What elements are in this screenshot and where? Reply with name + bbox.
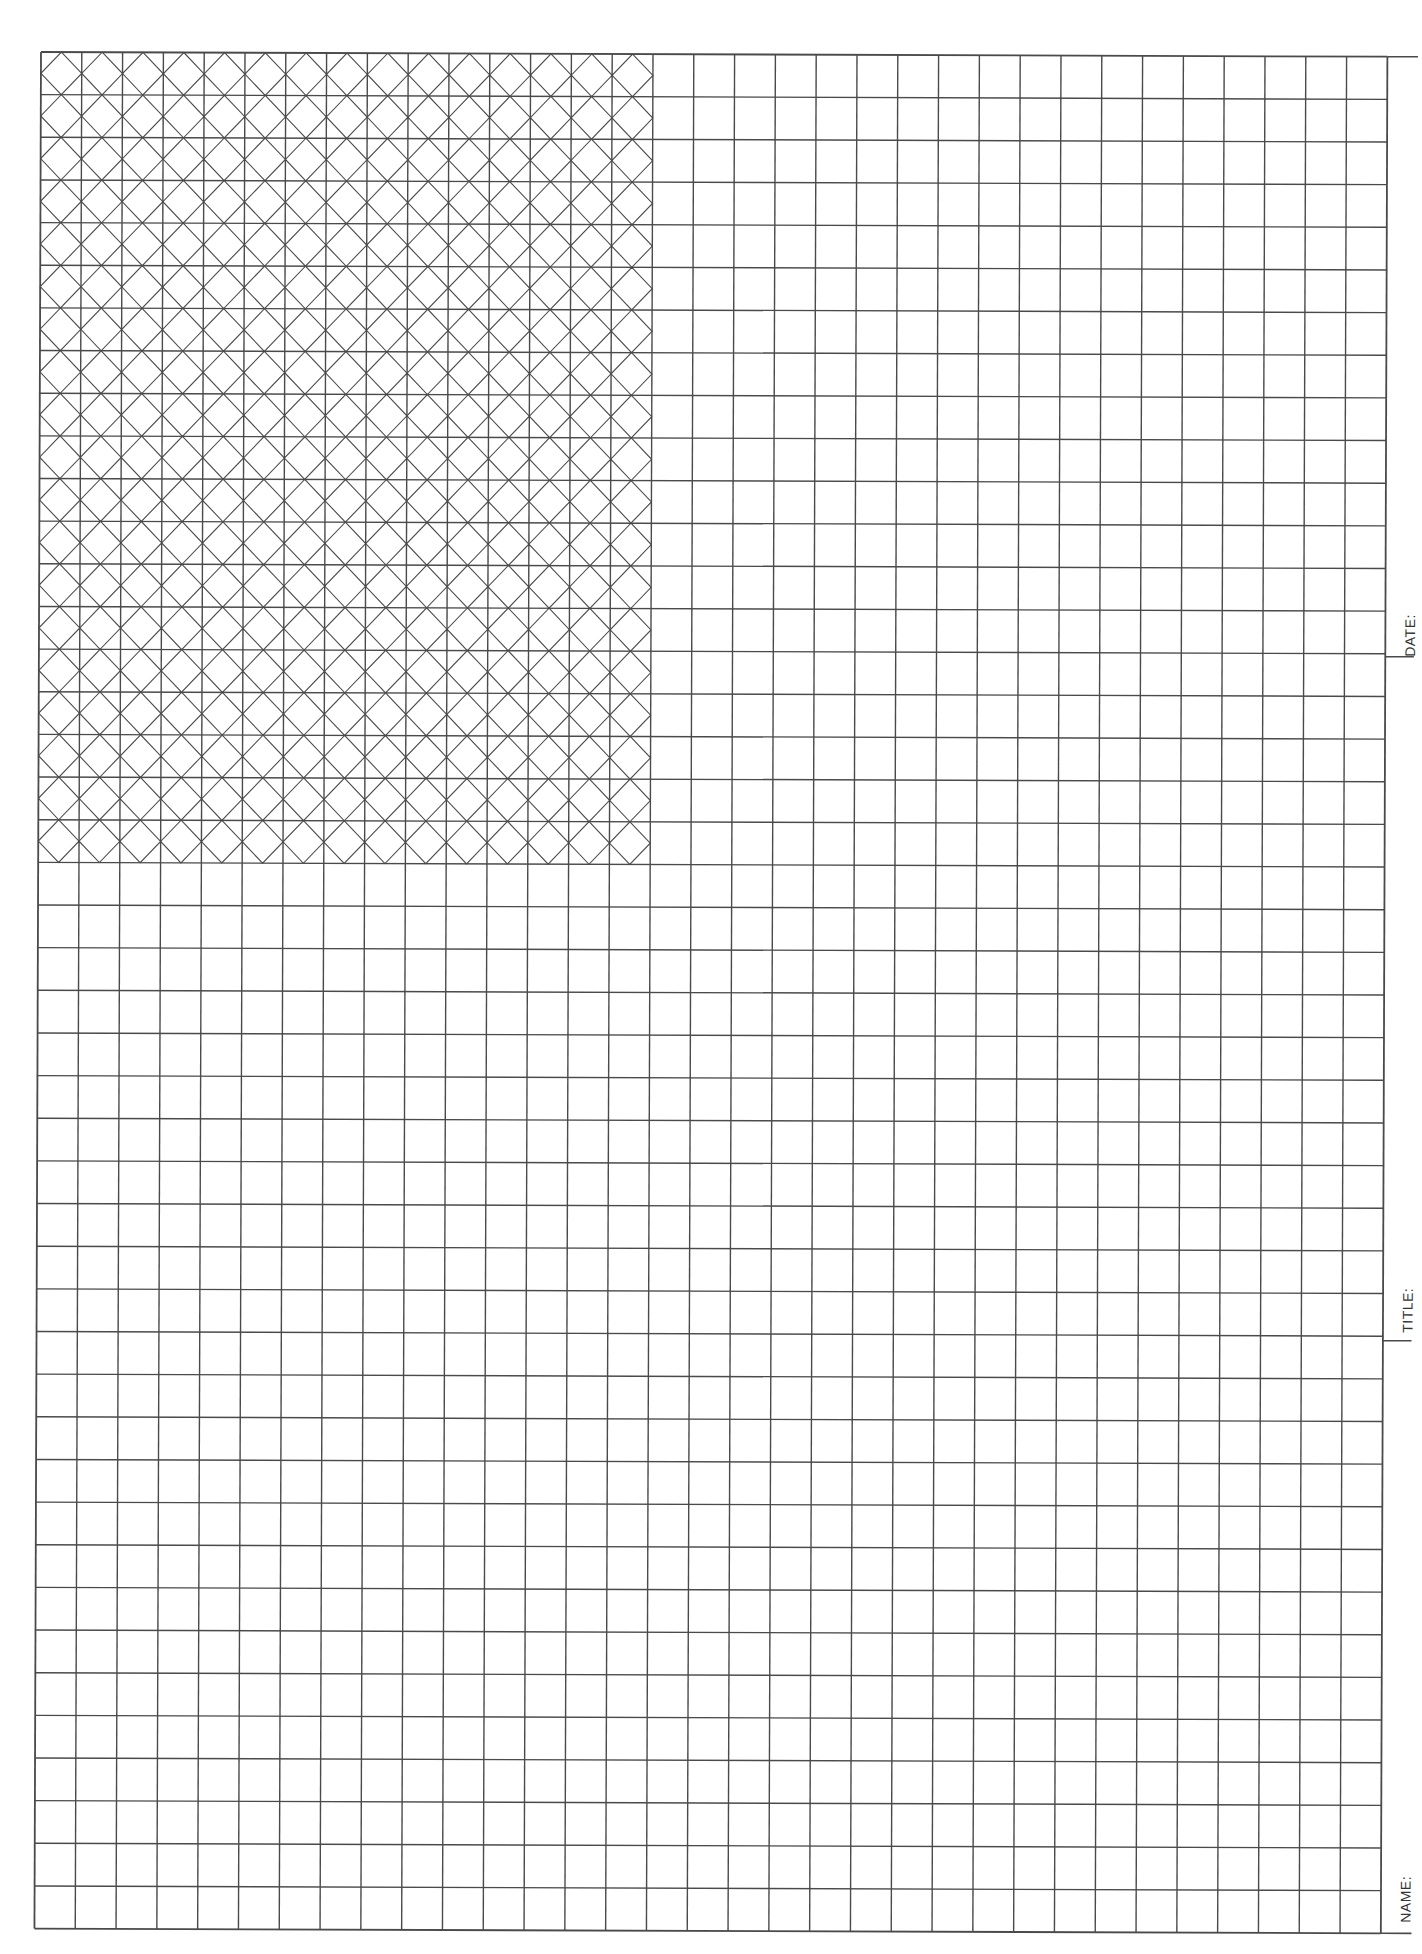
grid-hline [39, 649, 1385, 654]
grid-hline [36, 1459, 1382, 1464]
grid-hline [37, 1076, 1383, 1081]
grid-hline [38, 990, 1384, 995]
grid-hline [40, 265, 1386, 270]
grid-hline [37, 1118, 1383, 1123]
grid-hline [38, 905, 1384, 910]
grid-hline [38, 862, 1384, 867]
grid-hline [37, 1204, 1383, 1209]
grid-hline [41, 137, 1387, 142]
grid-hline [41, 95, 1387, 100]
grid-hline [35, 1843, 1381, 1848]
grid-hline [41, 180, 1387, 185]
grid-hline [35, 1886, 1381, 1891]
grid-hline [41, 52, 1387, 57]
grid-hline [36, 1374, 1382, 1379]
grid-hline [35, 1630, 1381, 1635]
grid [0, 0, 1422, 1954]
grid-hline [34, 1929, 1380, 1934]
grid-hline [40, 308, 1386, 313]
grid-hline [36, 1545, 1382, 1550]
grid-hline [38, 948, 1384, 953]
grid-hline [40, 478, 1386, 483]
grid-hline [37, 1289, 1383, 1294]
grid-hline [35, 1758, 1381, 1763]
grid-hline [37, 1246, 1383, 1251]
hatched-region [38, 52, 653, 864]
grid-hline [36, 1587, 1382, 1592]
grid-hline [40, 393, 1386, 398]
grid-hline [40, 436, 1386, 441]
name-label: NAME: [1397, 1876, 1413, 1923]
grid-hline [39, 606, 1385, 611]
grid-hline [37, 1331, 1383, 1336]
grid-hline [37, 1161, 1383, 1166]
grid-hline [35, 1673, 1381, 1678]
grid-hline [39, 521, 1385, 526]
grid-hline [40, 351, 1386, 356]
grid-hline [38, 820, 1384, 825]
date-label: DATE: [1402, 614, 1418, 657]
grid-hline [40, 223, 1386, 228]
graph-paper-sheet: DATE: TITLE: NAME: [0, 0, 1422, 1954]
grid-hline [39, 692, 1385, 697]
title-label: TITLE: [1400, 1288, 1416, 1333]
grid-hline [35, 1801, 1381, 1806]
grid-hline [36, 1417, 1382, 1422]
grid-hline [38, 1033, 1384, 1038]
grid-hline [39, 564, 1385, 569]
grid-hline [38, 777, 1384, 782]
grid-hline [36, 1502, 1382, 1507]
grid-hline [39, 734, 1385, 739]
grid-hline [35, 1715, 1381, 1720]
